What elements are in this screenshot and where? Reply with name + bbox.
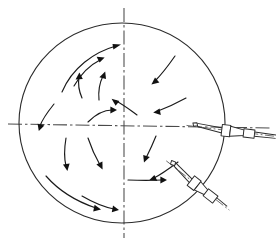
flow-arrow-a12: [46, 176, 101, 211]
arrow-head: [63, 163, 70, 171]
arrow-head: [160, 177, 167, 184]
vessel-flow-diagram: Spherical vessel cross-section with two …: [0, 0, 276, 248]
flow-arrow-a4: [99, 72, 106, 100]
flow-arrow-a5: [151, 56, 175, 85]
technical-diagram-canvas: Spherical vessel cross-section with two …: [0, 0, 276, 248]
arrow-head: [143, 155, 150, 163]
arrow-head: [113, 44, 122, 50]
flow-arrow-a8: [88, 107, 117, 122]
nozzle-inner-tip: [169, 160, 176, 167]
flow-arrow-a10: [63, 138, 70, 171]
flow-arrow-path: [99, 76, 103, 100]
arrow-head: [153, 108, 161, 115]
nozzle-outer-barrel: [243, 129, 255, 139]
arrow-head: [110, 107, 117, 114]
flow-arrow-path: [78, 77, 82, 98]
flow-arrow-path: [88, 110, 112, 122]
flow-arrow-path: [88, 138, 100, 165]
flow-arrow-path: [62, 46, 116, 92]
flow-arrow-path: [65, 138, 67, 166]
flow-arrow-a13: [82, 196, 119, 212]
flow-arrow-a11: [88, 138, 103, 169]
centerlines-group: [8, 8, 272, 238]
arrow-head: [112, 205, 119, 212]
internal-swirl-flow-group: [38, 44, 186, 212]
arrow-head: [112, 99, 120, 106]
flow-arrow-path: [146, 136, 156, 158]
flow-arrow-a1: [62, 44, 121, 92]
injection-nozzle-upper-right: [186, 120, 276, 143]
flow-arrow-path: [116, 101, 137, 115]
flow-arrow-a6: [153, 98, 186, 115]
flow-arrow-a3: [76, 72, 83, 98]
flow-arrow-path: [74, 60, 100, 86]
flow-arrow-path: [40, 104, 54, 126]
flow-arrow-path: [82, 196, 114, 209]
flow-arrow-a9: [38, 104, 54, 131]
flow-arrow-a14: [143, 136, 156, 163]
flow-arrow-path: [155, 56, 175, 81]
flow-arrow-a16: [128, 177, 167, 184]
arrow-head: [93, 205, 101, 212]
flow-arrow-path: [46, 176, 96, 208]
nozzle-supply-pipe: [216, 198, 227, 207]
injection-nozzle-lower-right: [162, 156, 232, 215]
flow-arrow-path: [158, 98, 186, 111]
arrow-head: [99, 72, 106, 79]
arrow-head: [96, 162, 102, 170]
arrow-head: [76, 72, 83, 79]
nozzle-inner-tip: [192, 122, 197, 127]
